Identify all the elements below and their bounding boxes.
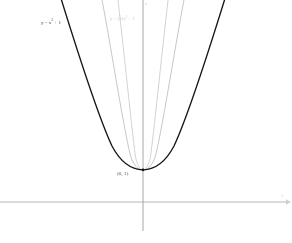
parabola-graph-figure: y = x2 + 1 y = (3x)2 + 1 (0, 1) x y	[0, 0, 292, 243]
vertex-point-marker	[142, 168, 145, 171]
x-axis-arrow-icon	[286, 199, 291, 205]
plot-canvas	[0, 0, 292, 243]
